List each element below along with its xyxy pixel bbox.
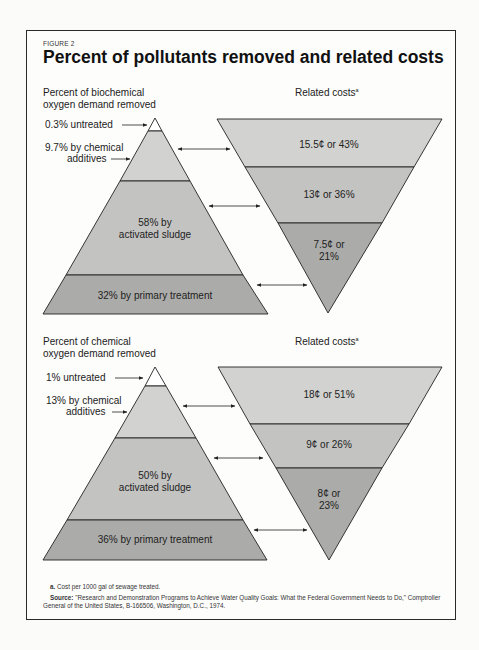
source-text: "Research and Demonstration Programs to … bbox=[43, 594, 440, 609]
cod-cost-primary-label-2: 23% bbox=[319, 500, 339, 511]
bod-side-labels: 0.3% untreated 9.7% by chemical additive… bbox=[45, 119, 147, 164]
bod-chemical-label-1: 9.7% by chemical bbox=[45, 142, 123, 153]
diagram-canvas: 58% by activated sludge 32% by primary t… bbox=[0, 0, 479, 650]
bod-layer-untreated bbox=[148, 118, 162, 131]
bod-layer-chemical bbox=[120, 131, 190, 181]
cod-primary-label: 36% by primary treatment bbox=[98, 534, 213, 545]
bod-cost-sludge-label: 13¢ or 36% bbox=[303, 189, 354, 200]
bod-primary-label: 32% by primary treatment bbox=[98, 290, 213, 301]
bod-cost-primary-label-2: 21% bbox=[319, 251, 339, 262]
bod-costs-triangle: 15.5¢ or 43% 13¢ or 36% 7.5¢ or 21% bbox=[217, 119, 442, 313]
bod-untreated-label: 0.3% untreated bbox=[45, 119, 113, 130]
bod-cost-chemical-label: 15.5¢ or 43% bbox=[299, 139, 359, 150]
cod-layer-chemical bbox=[115, 386, 196, 438]
bod-sludge-label-2: activated sludge bbox=[119, 229, 192, 240]
cod-cost-chemical-label: 18¢ or 51% bbox=[303, 389, 354, 400]
bod-chemical-label-2: additives bbox=[67, 153, 106, 164]
cod-untreated-label: 1% untreated bbox=[46, 372, 106, 383]
cod-layer-untreated bbox=[145, 367, 166, 386]
cod-cost-primary bbox=[276, 468, 382, 560]
cod-side-labels: 1% untreated 13% by chemical additives bbox=[46, 372, 143, 417]
cod-sludge-label-1: 50% by bbox=[138, 470, 171, 481]
cod-costs-triangle: 18¢ or 51% 9¢ or 26% 8¢ or 23% bbox=[218, 367, 442, 560]
source-note: Source: "Research and Demonstration Prog… bbox=[43, 594, 443, 610]
bod-sludge-label-1: 58% by bbox=[138, 217, 171, 228]
source-label: Source: bbox=[50, 594, 73, 601]
cod-chemical-label-2: additives bbox=[66, 406, 105, 417]
bod-layer-sludge bbox=[66, 181, 243, 275]
cod-sludge-label-2: activated sludge bbox=[119, 482, 192, 493]
cod-cost-primary-label-1: 8¢ or bbox=[318, 488, 341, 499]
cod-chemical-label-1: 13% by chemical bbox=[46, 395, 122, 406]
bod-cost-primary-label-1: 7.5¢ or bbox=[313, 239, 345, 250]
footnote-a: a. Cost per 1000 gal of sewage treated. bbox=[50, 583, 160, 590]
bod-cost-primary bbox=[278, 223, 382, 313]
cod-cost-sludge-label: 9¢ or 26% bbox=[306, 439, 352, 450]
footnote-a-text: Cost per 1000 gal of sewage treated. bbox=[55, 583, 160, 590]
